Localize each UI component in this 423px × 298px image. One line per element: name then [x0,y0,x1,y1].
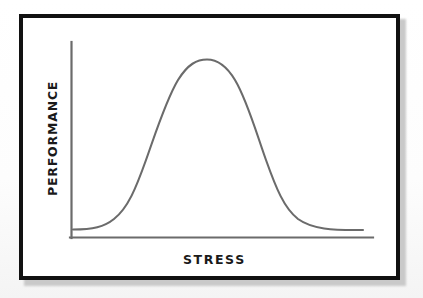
y-axis-label: PERFORMANCE [45,81,60,196]
performance-curve [73,60,363,231]
figure-canvas: PERFORMANCE STRESS [0,0,423,298]
x-axis-label: STRESS [183,252,246,267]
